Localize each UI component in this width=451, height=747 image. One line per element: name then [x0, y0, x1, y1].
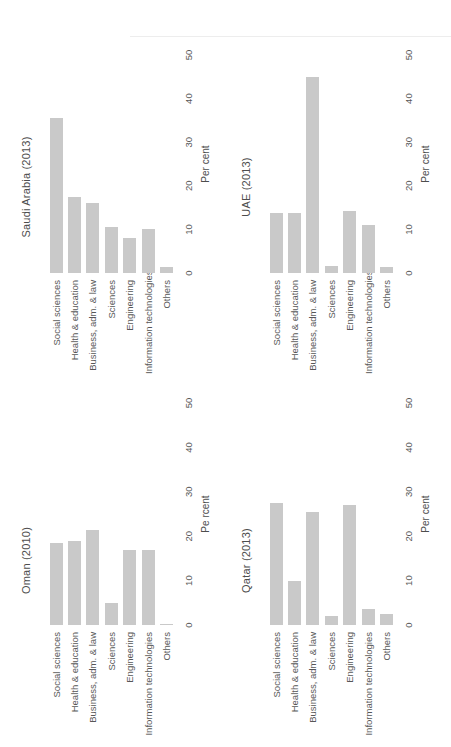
x-tick-label: 0 [183, 270, 194, 275]
x-tick-label: 50 [403, 50, 414, 61]
x-tick-label: 20 [183, 531, 194, 542]
chart-panel-uae-2013: UAE (2013) Social sciencesHealth & educa… [220, 0, 451, 374]
x-tick-label: 50 [183, 398, 194, 409]
x-tick-label: 10 [403, 224, 414, 235]
x-axis-label: Pe rcent [200, 403, 211, 625]
x-tick-label: 30 [183, 487, 194, 498]
x-tick-label: 30 [403, 487, 414, 498]
x-tick-label: 0 [403, 270, 414, 275]
x-axis-label: Per cent [200, 55, 211, 273]
x-tick-label: 40 [403, 442, 414, 453]
x-tick-label: 20 [183, 181, 194, 192]
x-tick-label: 30 [403, 137, 414, 148]
x-tick-label: 20 [403, 181, 414, 192]
x-axis-ticks: 01020304050 [0, 0, 220, 374]
chart-panel-oman-2010: Oman (2010) Social sciencesHealth & educ… [0, 374, 220, 747]
x-tick-label: 40 [183, 93, 194, 104]
chart-panel-saudi-arabia-2013: Saudi Arabia (2013) Social sciencesHealt… [0, 0, 220, 374]
x-tick-label: 50 [403, 398, 414, 409]
x-tick-label: 0 [183, 622, 194, 627]
x-axis-ticks: 01020304050 [0, 374, 220, 747]
chart-panel-qatar-2013: Qatar (2013) Social sciencesHealth & edu… [220, 374, 451, 747]
x-axis-label: Per cent [420, 55, 431, 273]
x-tick-label: 20 [403, 531, 414, 542]
x-axis-label: Per cent [420, 403, 431, 625]
x-tick-label: 50 [183, 50, 194, 61]
x-tick-label: 10 [183, 575, 194, 586]
x-tick-label: 30 [183, 137, 194, 148]
x-tick-label: 10 [403, 575, 414, 586]
rotated-page: Oman (2010) Social sciencesHealth & educ… [0, 0, 451, 747]
x-tick-label: 10 [183, 224, 194, 235]
x-tick-label: 40 [183, 442, 194, 453]
x-axis-ticks: 01020304050 [220, 0, 451, 374]
four-panel-bar-chart-figure: Oman (2010) Social sciencesHealth & educ… [0, 0, 451, 747]
scan-artifact-line [130, 36, 451, 37]
x-tick-label: 0 [403, 622, 414, 627]
x-tick-label: 40 [403, 93, 414, 104]
x-axis-ticks: 01020304050 [220, 374, 451, 747]
